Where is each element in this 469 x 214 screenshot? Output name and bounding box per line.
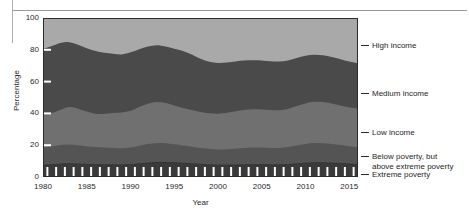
x-axis-tick-label: 1995: [154, 183, 194, 191]
x-axis-tick-label: 2005: [242, 183, 282, 191]
x-axis-tick-label: 1990: [111, 183, 151, 191]
chart-plot-area: [0, 0, 469, 214]
x-axis-tick-label: 2010: [286, 183, 326, 191]
series-label-high-income: High income: [372, 41, 416, 51]
leader-line-high-income: [361, 45, 369, 46]
y-axis-tick-label: 60: [17, 78, 39, 86]
y-axis-tick-label: 0: [17, 173, 39, 181]
y-axis-tick-label: 20: [17, 141, 39, 149]
y-axis-tick-label: 40: [17, 109, 39, 117]
leader-line-low-income: [361, 132, 369, 133]
leader-line-medium-income: [361, 93, 369, 94]
y-axis-tick-label: 100: [17, 14, 39, 22]
stacked-area-figure: Percentage Year 020406080100198019851990…: [0, 0, 469, 214]
x-axis-tick-label: 1985: [67, 183, 107, 191]
series-label-extreme-poverty: Extreme poverty: [372, 170, 430, 180]
series-label-low-income: Low income: [372, 128, 415, 138]
x-axis-tick-label: 2015: [329, 183, 369, 191]
series-label-medium-income: Medium income: [372, 89, 428, 99]
x-axis-tick-label: 1980: [23, 183, 63, 191]
x-axis-tick-label: 2000: [198, 183, 238, 191]
series-label-below-poverty: Below poverty, but above extreme poverty: [372, 152, 453, 171]
x-axis-title: Year: [43, 198, 358, 207]
y-axis-tick-label: 80: [17, 46, 39, 54]
leader-line-extreme-poverty: [361, 174, 369, 175]
leader-line-below-poverty: [361, 156, 369, 157]
